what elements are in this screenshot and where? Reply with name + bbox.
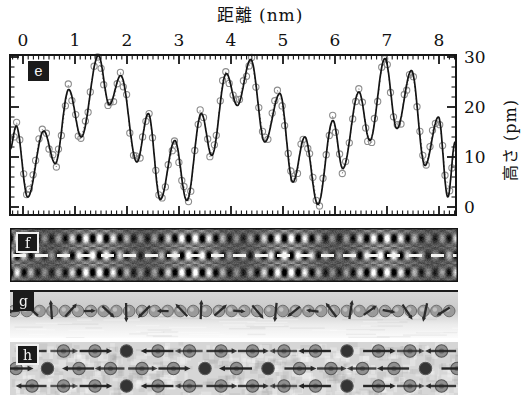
spin-spiral-side-view-panel-g <box>10 290 458 338</box>
fit-curve <box>10 56 456 205</box>
svg-text:0: 0 <box>464 197 475 217</box>
svg-text:10: 10 <box>464 147 486 167</box>
measured-dotted-line <box>10 57 455 206</box>
svg-text:3: 3 <box>174 30 185 50</box>
svg-text:6: 6 <box>330 30 341 50</box>
panel-label-f: f <box>16 232 39 253</box>
panel-letter-h: h <box>23 347 32 363</box>
svg-text:20: 20 <box>464 97 486 117</box>
height-profile-chart: 0123456780102030 <box>0 0 532 228</box>
figure: 距離 (nm) 0123456780102030 高さ (pm) e f g h <box>0 0 532 399</box>
y-axis-title: 高さ (pm) <box>501 80 521 200</box>
panel-label-e: e <box>28 61 49 81</box>
svg-text:2: 2 <box>122 30 133 50</box>
svg-text:0: 0 <box>18 30 29 50</box>
panel-label-h: h <box>16 344 39 365</box>
svg-text:4: 4 <box>226 30 237 50</box>
svg-text:5: 5 <box>278 30 289 50</box>
svg-text:1: 1 <box>70 30 81 50</box>
svg-text:7: 7 <box>382 30 393 50</box>
svg-text:8: 8 <box>434 30 445 50</box>
panel-letter-g: g <box>19 293 28 309</box>
panel-letter-e: e <box>34 63 42 79</box>
panel-letter-f: f <box>25 235 30 251</box>
stm-simulated-image-panel-f <box>10 228 458 282</box>
spin-structure-top-view-panel-h <box>10 342 458 395</box>
panel-label-g: g <box>13 291 34 311</box>
svg-text:30: 30 <box>464 47 486 67</box>
